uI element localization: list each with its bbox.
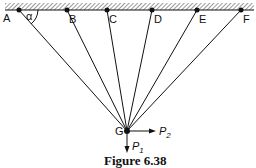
truss-diagram: α A B C D E F G P2 P1 Figure 6.38 bbox=[0, 0, 256, 168]
ceiling-support bbox=[5, 3, 254, 10]
bar-EG bbox=[127, 10, 197, 131]
joint-B bbox=[65, 8, 70, 13]
label-C: C bbox=[109, 13, 117, 25]
label-G: G bbox=[115, 125, 124, 137]
figure-caption: Figure 6.38 bbox=[104, 153, 167, 168]
joint-E bbox=[195, 8, 200, 13]
label-B: B bbox=[69, 13, 76, 25]
label-A: A bbox=[3, 12, 11, 24]
bar-DG bbox=[127, 10, 152, 131]
force-arrow-p1 bbox=[125, 134, 130, 153]
force-arrow-p2 bbox=[130, 129, 156, 134]
bars bbox=[19, 10, 241, 131]
label-E: E bbox=[199, 13, 206, 25]
bar-CG bbox=[107, 10, 127, 131]
joint-G bbox=[124, 128, 130, 134]
label-F: F bbox=[243, 13, 250, 25]
bar-BG bbox=[67, 10, 127, 131]
force-label-p2: P2 bbox=[159, 125, 171, 140]
bar-AG bbox=[19, 10, 127, 131]
joint-A bbox=[17, 8, 22, 13]
joint-F bbox=[239, 8, 244, 13]
label-D: D bbox=[154, 13, 162, 25]
joint-D bbox=[150, 8, 155, 13]
angle-label-alpha: α bbox=[26, 10, 33, 22]
bar-FG bbox=[127, 10, 241, 131]
joint-C bbox=[105, 8, 110, 13]
